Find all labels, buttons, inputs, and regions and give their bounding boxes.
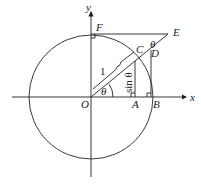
angle-arc-origin: [109, 84, 113, 97]
y-axis-label: y: [85, 1, 91, 13]
right-angle-B: [147, 93, 151, 97]
angle-origin-label: θ: [101, 85, 107, 97]
point-D-label: D: [150, 47, 159, 59]
x-axis-label: x: [189, 91, 195, 103]
origin-label: O: [81, 98, 89, 110]
radius-label: 1: [100, 65, 106, 77]
point-F-label: F: [95, 21, 103, 33]
point-C-label: C: [136, 43, 144, 55]
sine-label: sin θ: [122, 72, 134, 93]
point-B-label: B: [153, 98, 160, 110]
point-A-label: A: [131, 98, 139, 110]
point-E-label: E: [172, 26, 180, 38]
unit-circle-diagram: y x F E θ C D 1 θ sin θ O A B: [0, 0, 201, 187]
